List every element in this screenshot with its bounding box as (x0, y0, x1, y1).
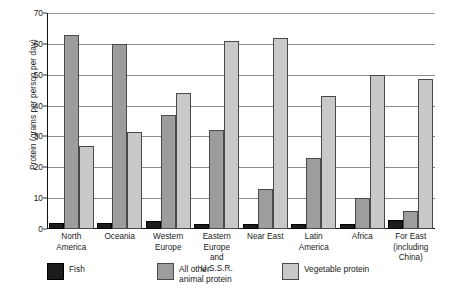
bar (49, 223, 64, 229)
bar-group (241, 13, 290, 229)
bar (194, 224, 209, 229)
plot-area: 010203040506070 (47, 13, 435, 229)
bar-group (47, 13, 96, 229)
bar (370, 75, 385, 229)
bar (243, 224, 258, 229)
bar (161, 115, 176, 229)
bar (403, 211, 418, 230)
bar (291, 224, 306, 229)
bar-group (193, 13, 242, 229)
legend-item: Fish (47, 262, 157, 280)
legend-label: All otheranimal protein (179, 262, 232, 284)
bar (258, 189, 273, 229)
bar-group (338, 13, 387, 229)
legend-item: Vegetable protein (282, 262, 432, 280)
bar (79, 146, 94, 229)
bar-groups (47, 13, 435, 229)
y-tick-label-20: 20 (34, 162, 43, 172)
bar (127, 132, 142, 229)
bar (146, 221, 161, 229)
legend-item: All otheranimal protein (157, 262, 282, 284)
bar (388, 220, 403, 229)
bar (64, 35, 79, 229)
legend-swatch-fish (47, 263, 64, 280)
bar-group (144, 13, 193, 229)
legend-label: Fish (69, 262, 85, 274)
y-tick-label-40: 40 (34, 101, 43, 111)
legend-swatch-vegetable (282, 263, 299, 280)
y-tick-label-50: 50 (34, 70, 43, 80)
bar-group (290, 13, 339, 229)
bar (340, 224, 355, 229)
protein-bar-chart: Protein (grams per person per day) 01020… (0, 0, 449, 296)
bar (321, 96, 336, 229)
y-tick-label-60: 60 (34, 39, 43, 49)
y-tick-label-10: 10 (34, 193, 43, 203)
bar (273, 38, 288, 229)
bar (224, 41, 239, 229)
bar (209, 130, 224, 229)
bar-group (387, 13, 436, 229)
chart-legend: FishAll otheranimal proteinVegetable pro… (47, 262, 435, 284)
legend-swatch-animal (157, 263, 174, 280)
bar (306, 158, 321, 229)
bar (176, 93, 191, 229)
bar (97, 223, 112, 229)
y-tick-label-30: 30 (34, 131, 43, 141)
y-tick-label-70: 70 (34, 8, 43, 18)
y-axis-line (47, 13, 48, 229)
bar (355, 198, 370, 229)
legend-label: Vegetable protein (304, 262, 369, 274)
bar (112, 44, 127, 229)
bar-group (96, 13, 145, 229)
bar (418, 79, 433, 229)
